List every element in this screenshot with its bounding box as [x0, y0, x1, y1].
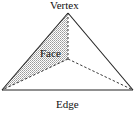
vertex-label: Vertex	[50, 0, 79, 11]
hidden-edge-right	[68, 59, 133, 90]
edge-right	[68, 13, 133, 90]
edge-label: Edge	[56, 99, 79, 110]
face-label: Face	[40, 48, 61, 59]
tetrahedron-figure	[0, 0, 135, 113]
tetrahedron-diagram: Vertex Face Edge	[0, 0, 135, 113]
